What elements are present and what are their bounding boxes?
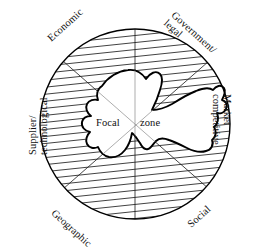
sector-label-market-line1: Market xyxy=(222,94,233,125)
focal-zone-label-part2: zone xyxy=(140,118,160,129)
focal-zone-figure: Economic Government/ legal Market compet… xyxy=(0,0,270,247)
sector-label-supplier-line1: Supplier/ xyxy=(27,116,38,155)
sector-label-supplier-technological: Supplier/ technological xyxy=(28,81,49,155)
sector-label-supplier-line2: technological xyxy=(38,97,49,155)
focal-zone-label-part1: Focal xyxy=(96,118,120,129)
sector-label-market-line2: competitive xyxy=(211,94,222,145)
sector-label-market-competitive: Market competitive xyxy=(211,94,232,164)
